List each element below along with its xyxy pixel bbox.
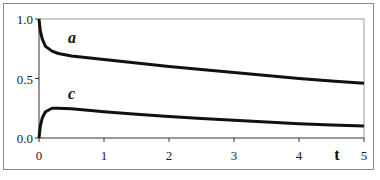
series-c-label: c [68, 85, 75, 102]
x-tick-label: 2 [166, 148, 173, 163]
y-tick-label: 0.0 [17, 131, 33, 146]
x-tick-label: 1 [101, 148, 108, 163]
series-c-line [39, 108, 364, 138]
line-chart: 0123450.00.51.0act [0, 0, 380, 180]
x-axis-label: t [334, 146, 340, 163]
y-tick-label: 1.0 [17, 12, 33, 27]
y-tick-label: 0.5 [17, 72, 33, 87]
x-tick-label: 5 [361, 148, 368, 163]
x-tick-label: 3 [231, 148, 238, 163]
series-a-line [39, 19, 364, 83]
x-tick-label: 4 [296, 148, 303, 163]
x-tick-label: 0 [36, 148, 43, 163]
series-a-label: a [68, 29, 76, 46]
